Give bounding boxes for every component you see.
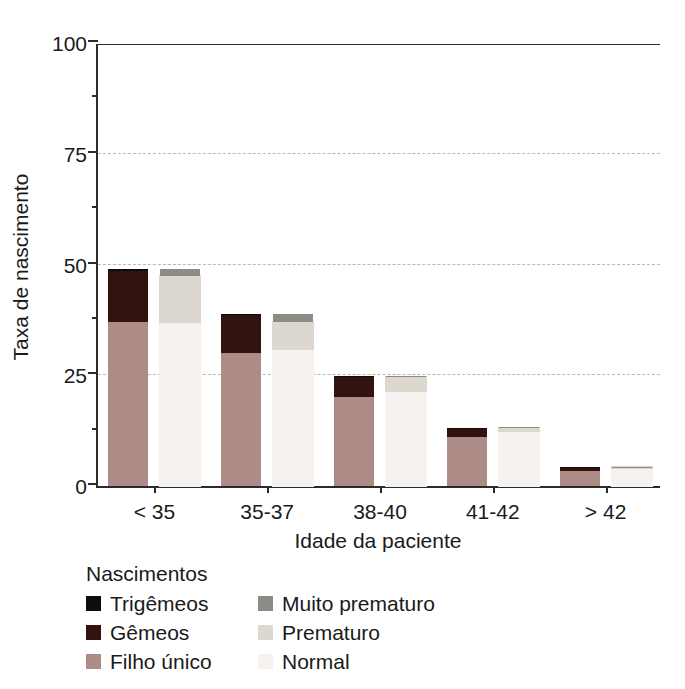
- bar-segment-g-meos: [108, 271, 148, 322]
- bar-segment-normal: [499, 431, 539, 486]
- bar-prematuridade-35: [160, 269, 200, 486]
- x-tick-0: [154, 486, 156, 493]
- birth-rate-stacked-bar-chart: Taxa de nascimento 0255075100< 3535-3738…: [0, 0, 685, 689]
- x-tick-label-1: 35-37: [240, 500, 294, 524]
- y-axis-title-text: Taxa de nascimento: [9, 173, 33, 360]
- bar-segment-prematuro: [386, 377, 426, 390]
- legend-swatch-icon: [86, 625, 101, 640]
- x-tick-1: [267, 486, 269, 493]
- legend-label: Trigêmeos: [110, 593, 208, 614]
- bar-segment-filho-nico: [334, 397, 374, 486]
- y-tick-minor-12.5: [92, 428, 98, 430]
- x-tick-4: [606, 486, 608, 493]
- legend-column-1: Muito prematuroPrematuroNormal: [258, 589, 435, 676]
- chart-legend: Nascimentos TrigêmeosGêmeosFilho únicoMu…: [86, 562, 556, 676]
- bar-segment-prematuro: [499, 428, 539, 431]
- legend-swatch-icon: [258, 625, 273, 640]
- bar-segment-trig-meos: [221, 314, 261, 315]
- legend-item-g-meos[interactable]: Gêmeos: [86, 618, 236, 647]
- legend-item-normal[interactable]: Normal: [258, 647, 435, 676]
- legend-swatch-icon: [86, 596, 101, 611]
- x-axis-title: Idade da paciente: [96, 529, 660, 553]
- bar-segment-prematuro: [273, 322, 313, 349]
- bar-segment-g-meos: [560, 467, 600, 471]
- legend-swatch-icon: [86, 654, 101, 669]
- bar-multiplicidade-3537: [221, 314, 261, 486]
- legend-column-0: TrigêmeosGêmeosFilho único: [86, 589, 236, 676]
- legend-item-muito-prematuro[interactable]: Muito prematuro: [258, 589, 435, 618]
- legend-label: Gêmeos: [110, 622, 189, 643]
- legend-item-trig-meos[interactable]: Trigêmeos: [86, 589, 236, 618]
- bar-segment-prematuro: [160, 276, 200, 323]
- plot-area: 0255075100< 3535-3738-4041-42> 42: [96, 45, 660, 488]
- y-tick-minor-87.5: [92, 95, 98, 97]
- bar-segment-g-meos: [334, 376, 374, 397]
- bar-prematuridade-42: [612, 467, 652, 486]
- bar-multiplicidade-42: [560, 467, 600, 486]
- bar-multiplicidade-4142: [447, 428, 487, 486]
- bar-segment-muito-prematuro: [273, 314, 313, 322]
- y-tick-minor-62.5: [92, 206, 98, 208]
- bar-segment-filho-nico: [447, 437, 487, 486]
- bar-segment-normal: [612, 468, 652, 486]
- bar-multiplicidade-3840: [334, 376, 374, 486]
- legend-item-prematuro[interactable]: Prematuro: [258, 618, 435, 647]
- bar-segment-muito-prematuro: [499, 427, 539, 428]
- y-tick-label-25: 25: [64, 365, 98, 386]
- y-tick-label-75: 75: [64, 143, 98, 164]
- x-tick-label-0: < 35: [134, 500, 175, 524]
- y-tick-minor-37.5: [92, 317, 98, 319]
- bar-segment-filho-nico: [221, 353, 261, 486]
- legend-label: Normal: [282, 651, 350, 672]
- bar-prematuridade-3537: [273, 314, 313, 486]
- x-tick-label-2: 38-40: [353, 500, 407, 524]
- x-tick-label-3: 41-42: [466, 500, 520, 524]
- legend-title: Nascimentos: [86, 562, 556, 586]
- legend-label: Prematuro: [282, 622, 380, 643]
- gridline-50: [98, 264, 660, 265]
- bar-segment-filho-nico: [108, 322, 148, 486]
- bar-segment-normal: [160, 322, 200, 486]
- x-tick-2: [380, 486, 382, 493]
- bar-segment-normal: [273, 349, 313, 486]
- bar-multiplicidade-35: [108, 269, 148, 486]
- legend-swatch-icon: [258, 654, 273, 669]
- gridline-75: [98, 153, 660, 154]
- y-tick-label-100: 100: [52, 33, 98, 54]
- legend-columns: TrigêmeosGêmeosFilho únicoMuito prematur…: [86, 589, 556, 676]
- legend-label: Filho único: [110, 651, 212, 672]
- bar-segment-normal: [386, 391, 426, 486]
- y-tick-label-50: 50: [64, 254, 98, 275]
- legend-swatch-icon: [258, 596, 273, 611]
- bar-segment-muito-prematuro: [386, 376, 426, 377]
- x-tick-label-4: > 42: [585, 500, 626, 524]
- bar-prematuridade-4142: [499, 427, 539, 486]
- bar-segment-filho-nico: [560, 471, 600, 486]
- bar-segment-trig-meos: [108, 269, 148, 271]
- bar-segment-muito-prematuro: [160, 269, 200, 276]
- bar-segment-g-meos: [221, 315, 261, 353]
- bar-segment-prematuro: [612, 467, 652, 468]
- bar-prematuridade-3840: [386, 376, 426, 486]
- x-tick-3: [493, 486, 495, 493]
- bar-segment-g-meos: [447, 428, 487, 437]
- legend-item-filho-nico[interactable]: Filho único: [86, 647, 236, 676]
- legend-label: Muito prematuro: [282, 593, 435, 614]
- y-tick-label-0: 0: [75, 476, 98, 497]
- y-axis-title: Taxa de nascimento: [8, 45, 34, 488]
